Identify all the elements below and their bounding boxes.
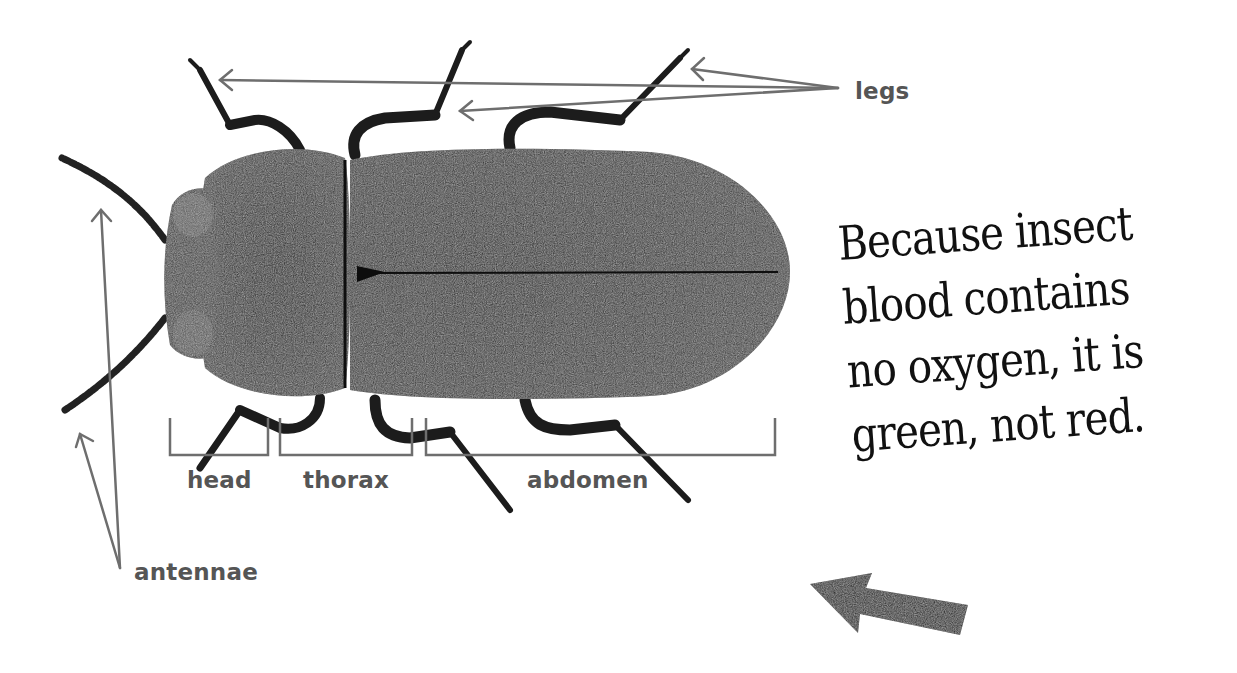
beetle-anatomy-diagram: legs antennae head thorax abdomen Becaus… (0, 0, 1237, 673)
fact-callout: Because insect blood contains no oxygen,… (836, 184, 1237, 467)
label-thorax: thorax (303, 469, 389, 492)
left-arrow-icon (810, 573, 968, 635)
label-abdomen: abdomen (527, 469, 649, 492)
beetle-antennae (62, 158, 165, 410)
beetle-legs-top (190, 42, 688, 155)
elytral-suture (372, 272, 778, 273)
label-legs: legs (855, 80, 909, 103)
beetle-body (164, 149, 790, 399)
label-head: head (187, 469, 252, 492)
label-antennae: antennae (134, 561, 258, 584)
